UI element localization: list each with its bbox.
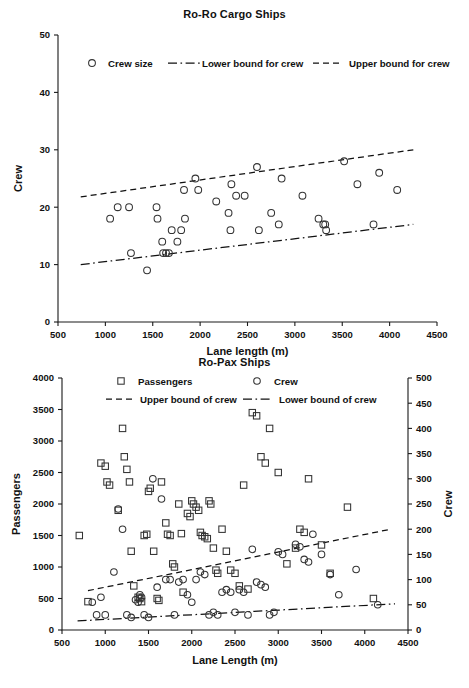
roro-x-tick-label: 3500 <box>332 329 353 340</box>
data-point-circle <box>193 576 200 583</box>
ropax-y-tick-label: 3000 <box>33 435 54 446</box>
data-point-circle <box>370 221 377 228</box>
data-point-circle <box>178 227 185 234</box>
data-point-circle <box>233 192 240 199</box>
ropax-y2-tick-label: 100 <box>416 574 432 585</box>
data-point-circle <box>241 192 248 199</box>
data-point-circle <box>150 476 157 483</box>
data-point-square <box>275 469 281 475</box>
data-point-circle <box>315 215 322 222</box>
ropax-legend-label-upper-bound: Upper bound of crew <box>140 394 237 405</box>
ropax-y2-tick-label: 50 <box>416 599 427 610</box>
ropax-x-tick-label: 4500 <box>397 637 418 648</box>
ropax-y-tick-label: 500 <box>38 593 54 604</box>
data-point-square <box>176 501 182 507</box>
data-point-circle <box>376 169 383 176</box>
data-point-circle <box>336 591 343 598</box>
data-point-circle <box>111 569 118 576</box>
ropax-y-tick-label: 3500 <box>33 404 54 415</box>
data-point-circle <box>318 551 325 558</box>
data-point-square <box>284 561 290 567</box>
data-point-circle <box>394 187 401 194</box>
ropax-y-tick-label: 2000 <box>33 498 54 509</box>
ropax-y2-tick-label: 400 <box>416 423 432 434</box>
data-point-circle <box>98 594 105 601</box>
ropax-y2-axis-title: Crew <box>442 490 454 517</box>
data-point-circle <box>128 250 135 257</box>
data-point-circle <box>228 181 235 188</box>
data-point-circle <box>182 215 189 222</box>
data-point-square <box>163 520 169 526</box>
data-point-circle <box>310 531 317 538</box>
data-point-square <box>370 595 376 601</box>
data-point-square <box>266 425 272 431</box>
ropax-x-tick-label: 500 <box>54 637 70 648</box>
data-point-circle <box>354 181 361 188</box>
data-point-circle <box>159 238 166 245</box>
data-point-square <box>240 482 246 488</box>
ropax-y-tick-label: 1000 <box>33 561 54 572</box>
data-point-square <box>305 476 311 482</box>
ropax-x-tick-label: 1000 <box>95 637 116 648</box>
data-point-circle <box>341 158 348 165</box>
data-point-square <box>121 454 127 460</box>
ropax-y-tick-label: 2500 <box>33 467 54 478</box>
data-point-circle <box>167 576 174 583</box>
roro-cargo-ships-chart: Ro-Ro Cargo Ships 0102030405050010001500… <box>0 0 469 348</box>
data-point-square <box>178 530 184 536</box>
roro-y-tick-label: 20 <box>39 202 50 213</box>
ropax-x-tick-label: 3500 <box>311 637 332 648</box>
roro-x-tick-label: 2000 <box>190 329 211 340</box>
ropax-y2-tick-label: 150 <box>416 549 432 560</box>
data-point-circle <box>144 267 151 274</box>
data-point-circle <box>254 378 261 385</box>
data-point-circle <box>213 198 220 205</box>
ropax-axis-frame <box>62 378 408 630</box>
data-point-circle <box>93 612 100 619</box>
roro-legend-label-upper-bound: Upper bound for crew <box>349 58 450 69</box>
data-point-square <box>223 548 229 554</box>
data-point-circle <box>171 612 178 619</box>
data-point-square <box>262 460 268 466</box>
data-point-circle <box>225 210 232 217</box>
data-point-circle <box>89 60 96 67</box>
data-point-circle <box>154 215 161 222</box>
data-point-circle <box>299 192 306 199</box>
roro-y-axis-title: Crew <box>12 165 24 192</box>
data-point-circle <box>249 546 256 553</box>
ropax-y-axis-title: Passengers <box>10 473 22 535</box>
data-point-square <box>131 583 137 589</box>
data-point-circle <box>184 591 191 598</box>
data-point-circle <box>168 227 175 234</box>
ropax-y2-tick-label: 300 <box>416 473 432 484</box>
data-point-circle <box>195 187 202 194</box>
data-point-square <box>128 548 134 554</box>
data-point-square <box>156 597 162 603</box>
ropax-x-tick-label: 2000 <box>181 637 202 648</box>
ropax-ships-chart: Ro-Pax Ships 050010001500200025003000350… <box>0 348 469 688</box>
data-point-square <box>124 466 130 472</box>
ropax-x-tick-label: 4000 <box>354 637 375 648</box>
data-point-square <box>158 479 164 485</box>
data-point-circle <box>353 566 360 573</box>
data-point-circle <box>181 187 188 194</box>
data-point-circle <box>114 204 121 211</box>
ropax-legend-label-passengers: Passengers <box>138 376 192 387</box>
roro-x-tick-label: 3000 <box>284 329 305 340</box>
data-point-circle <box>268 210 275 217</box>
roro-y-tick-label: 50 <box>39 29 50 40</box>
data-point-circle <box>227 227 234 234</box>
roro-x-tick-label: 1000 <box>95 329 116 340</box>
ropax-y2-tick-label: 250 <box>416 498 432 509</box>
data-point-circle <box>89 599 96 606</box>
roro-y-tick-label: 0 <box>45 316 50 327</box>
data-point-circle <box>154 584 161 591</box>
roro-legend-label-crew-size: Crew size <box>108 58 153 69</box>
data-point-square <box>119 425 125 431</box>
data-point-square <box>126 479 132 485</box>
ropax-legend-label-crew: Crew <box>274 376 298 387</box>
ropax-y-tick-label: 1500 <box>33 530 54 541</box>
ropax-y-tick-label: 4000 <box>33 372 54 383</box>
ropax-bound-line-upper <box>88 529 391 590</box>
data-point-circle <box>126 204 133 211</box>
